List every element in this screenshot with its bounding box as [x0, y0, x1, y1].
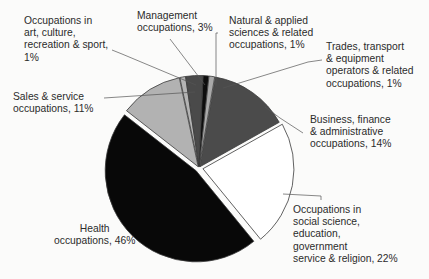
label-health: Health occupations, 46% — [54, 223, 135, 247]
label-natural: Natural & applied sciences & related occ… — [229, 15, 313, 52]
leader-trades — [223, 60, 322, 88]
leader-art — [112, 50, 196, 85]
label-business: Business, finance & administrative occup… — [310, 114, 391, 151]
label-social: Occupations in social science, education… — [293, 204, 398, 265]
label-sales: Sales & service occupations, 11% — [13, 91, 94, 115]
label-art: Occupations in art, culture, recreation … — [24, 15, 108, 64]
label-management: Management occupations, 3% — [137, 10, 213, 34]
label-trades: Trades, transport & equipment operators … — [326, 41, 414, 90]
